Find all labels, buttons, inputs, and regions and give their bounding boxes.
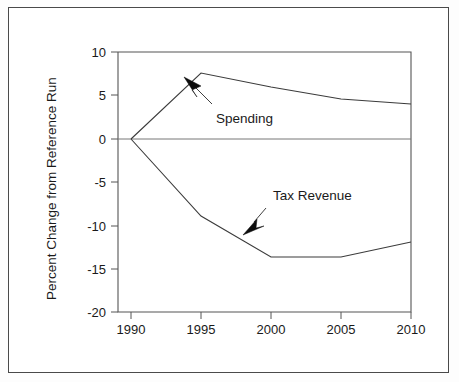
- tax-revenue-leader-line: [254, 208, 266, 222]
- y-tick-label-10: 10: [92, 45, 106, 60]
- plot-axes: [118, 52, 411, 312]
- series-line-tax-revenue: [131, 139, 411, 257]
- y-tick-label-m15: -15: [87, 262, 106, 277]
- spending-leader-line: [196, 88, 212, 104]
- x-tick-label-2005: 2005: [327, 322, 356, 337]
- y-tick-label-m20: -20: [87, 305, 106, 320]
- spending-label: Spending: [216, 111, 273, 126]
- figure-canvas: 10 5 0 -5 -10 -15 -20 1990 1995 2000 200…: [0, 0, 459, 382]
- tax-revenue-label: Tax Revenue: [273, 188, 352, 203]
- x-tick-label-2010: 2010: [397, 322, 426, 337]
- y-tick-label-5: 5: [99, 88, 106, 103]
- x-tick-label-1995: 1995: [187, 322, 216, 337]
- series-line-spending: [131, 73, 411, 139]
- y-axis-title: Percent Change from Reference Run: [44, 77, 59, 300]
- x-axis-ticks: [131, 312, 411, 319]
- axis-frame: [118, 52, 411, 312]
- y-axis-ticks: [111, 52, 118, 312]
- line-chart: 10 5 0 -5 -10 -15 -20 1990 1995 2000 200…: [0, 0, 459, 382]
- tax-revenue-arrowhead: [243, 219, 264, 235]
- y-tick-label-m10: -10: [87, 219, 106, 234]
- x-tick-label-1990: 1990: [117, 322, 146, 337]
- tax-revenue-annotation: Tax Revenue: [243, 188, 352, 235]
- y-tick-label-m5: -5: [94, 175, 106, 190]
- y-tick-label-0: 0: [99, 132, 106, 147]
- x-tick-label-2000: 2000: [257, 322, 286, 337]
